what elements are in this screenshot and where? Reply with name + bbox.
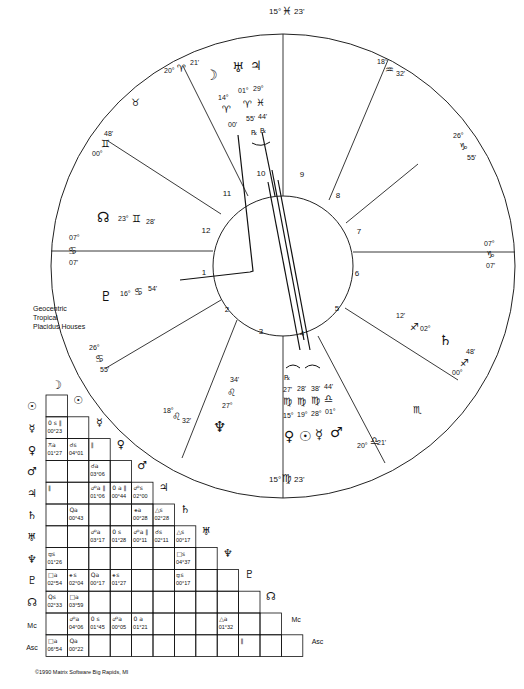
grid-cell (281, 635, 302, 657)
svg-text:♎: ♎ (324, 393, 333, 404)
planet-pluto: ♇ 16° ♋ 54' (100, 285, 157, 304)
aspect-symbol: 0 s ∥ (48, 419, 62, 427)
grid-row-label: Asc (26, 644, 38, 651)
svg-text:23': 23' (294, 7, 305, 16)
grid-row-label: ♀ (28, 444, 36, 457)
svg-text:34': 34' (230, 376, 239, 383)
svg-text:☽: ☽ (205, 67, 218, 83)
svg-text:11: 11 (223, 189, 232, 198)
aspect-symbol: ☍a (112, 615, 122, 622)
aspect-orb: 02°33 (48, 602, 62, 608)
svg-text:15°: 15° (283, 412, 294, 419)
svg-text:32': 32' (182, 417, 191, 424)
svg-text:♂: ♂ (330, 424, 343, 440)
grid-cell (217, 635, 238, 657)
cusp-labels: 15°♓23' 20°♈21' 18°♒32' 26°♑55' 07°♑07' … (68, 5, 495, 485)
svg-text:4: 4 (300, 329, 305, 338)
svg-text:♌: ♌ (172, 411, 181, 422)
grid-row-label: ♆ (27, 553, 37, 566)
intercepted-taurus: ♉ (131, 97, 140, 108)
house-cusp-lines (51, 34, 515, 498)
svg-text:32': 32' (396, 70, 405, 77)
grid-diagonal-header: ☉ (73, 394, 83, 407)
grid-diagonal-header: Mc (291, 616, 301, 623)
aspect-orb: 00°11 (133, 537, 147, 543)
svg-text:☿: ☿ (315, 427, 323, 442)
grid-diagonal-header: ♄ (180, 503, 190, 516)
aspect-symbol: ∥ (241, 637, 244, 645)
grid-cell (132, 591, 153, 613)
svg-text:16°: 16° (120, 290, 131, 297)
svg-text:♇: ♇ (100, 288, 113, 304)
svg-text:28': 28' (146, 218, 155, 225)
svg-text:23': 23' (294, 475, 305, 484)
grid-cell (132, 635, 153, 657)
aspect-symbol: ☌s (155, 528, 162, 535)
svg-text:15°: 15° (269, 7, 281, 16)
aspect-symbol: Qa (91, 571, 100, 578)
svg-text:♒: ♒ (385, 64, 394, 75)
aspect-symbol: ☌a (91, 462, 99, 469)
aspect-orb: 01°27 (48, 450, 62, 456)
svg-text:6: 6 (355, 269, 360, 278)
grid-row-label: ♅ (27, 531, 37, 544)
planet-node: ☊ 23° ♊ 28' (97, 209, 155, 225)
aspect-lines (180, 132, 310, 350)
svg-text:00°: 00° (92, 150, 103, 157)
aspect-symbol: 0 s (112, 528, 121, 535)
grid-cell (196, 635, 217, 657)
grid-cell (110, 591, 131, 613)
planet-neptune: 34' ♌ 27° ♆ (213, 376, 239, 436)
svg-text:♍: ♍ (283, 396, 292, 407)
info-house-system: Placidus Houses (33, 322, 85, 331)
grid-cell (196, 613, 217, 635)
grid-diagonal-header: ☊ (266, 590, 276, 603)
aspect-orb: 01°27 (112, 580, 126, 586)
aspect-symbol: ∥ (48, 484, 51, 492)
aspect-symbol: □a (69, 593, 79, 600)
grid-cell (67, 417, 88, 439)
natal-chart-wheel: 10 9 8 7 6 5 4 3 2 1 12 11 15°♓23' 20°♈2… (0, 0, 524, 689)
svg-text:28': 28' (297, 385, 306, 392)
aspect-orb: 01°21 (133, 624, 147, 630)
svg-text:℞: ℞ (284, 374, 290, 381)
aspect-symbol: 0 a ∥ (112, 484, 126, 492)
svg-text:℞: ℞ (260, 127, 266, 134)
svg-text:55': 55' (467, 154, 476, 161)
grid-row-label: ☊ (27, 596, 37, 609)
svg-text:♄: ♄ (439, 332, 452, 348)
aspect-symbol: ⚻a (48, 441, 56, 448)
svg-text:44': 44' (258, 113, 267, 120)
svg-text:48': 48' (104, 130, 113, 137)
svg-text:12': 12' (396, 312, 405, 319)
svg-text:5: 5 (335, 304, 340, 313)
grid-cell (153, 569, 174, 591)
aspect-orb: 01°32 (219, 624, 233, 630)
grid-cell (67, 460, 88, 482)
svg-text:♓: ♓ (282, 5, 292, 18)
grid-row-label: Mc (27, 622, 37, 629)
svg-text:♈: ♈ (243, 99, 252, 110)
aspect-orb: 02°00 (133, 493, 147, 499)
svg-text:01°: 01° (238, 87, 249, 94)
svg-text:26°: 26° (453, 132, 464, 139)
aspect-orb: 02°04 (69, 580, 83, 586)
svg-text:02°: 02° (420, 325, 431, 332)
aspect-orb: 00°43 (69, 515, 83, 521)
svg-text:♋: ♋ (95, 353, 104, 364)
chart-info: Geocentric Tropical Placidus Houses (33, 304, 85, 331)
grid-cell (153, 548, 174, 570)
aspect-symbol: ☌s (69, 441, 76, 448)
svg-text:☊: ☊ (97, 209, 109, 225)
grid-cell (196, 569, 217, 591)
svg-text:♋: ♋ (134, 286, 143, 297)
aspect-symbol: Qa (69, 506, 78, 513)
grid-cell (196, 548, 217, 570)
aspect-orb: 03°59 (69, 602, 83, 608)
grid-cell (132, 548, 153, 570)
aspect-orb: 02°28 (155, 515, 169, 521)
svg-text:♑: ♑ (459, 141, 468, 152)
grid-diagonal-header: ♃ (159, 481, 169, 494)
grid-cell (46, 613, 67, 635)
svg-text:♈: ♈ (222, 104, 231, 115)
